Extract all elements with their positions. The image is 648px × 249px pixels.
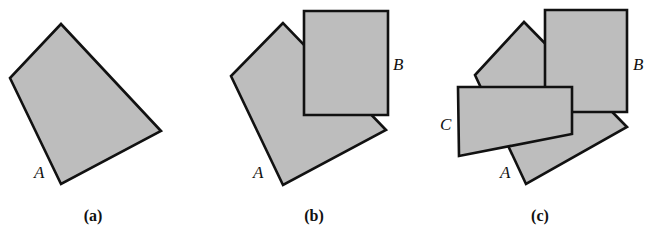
label-b: B [393, 55, 404, 74]
rectangle-b [304, 11, 388, 115]
panel-b: A B (b) [231, 11, 404, 225]
label-b: B [633, 55, 644, 74]
label-c: C [440, 115, 452, 134]
caption-b: (b) [304, 207, 324, 225]
overlap-diagram: A (a) A B (b) A B C (c) [0, 0, 648, 249]
caption-a: (a) [84, 207, 103, 225]
panel-a: A (a) [10, 24, 161, 225]
label-a: A [252, 163, 264, 182]
label-a: A [33, 163, 45, 182]
polygon-a [10, 24, 161, 184]
caption-c: (c) [531, 207, 549, 225]
panel-c: A B C (c) [440, 10, 644, 225]
label-a: A [499, 163, 511, 182]
